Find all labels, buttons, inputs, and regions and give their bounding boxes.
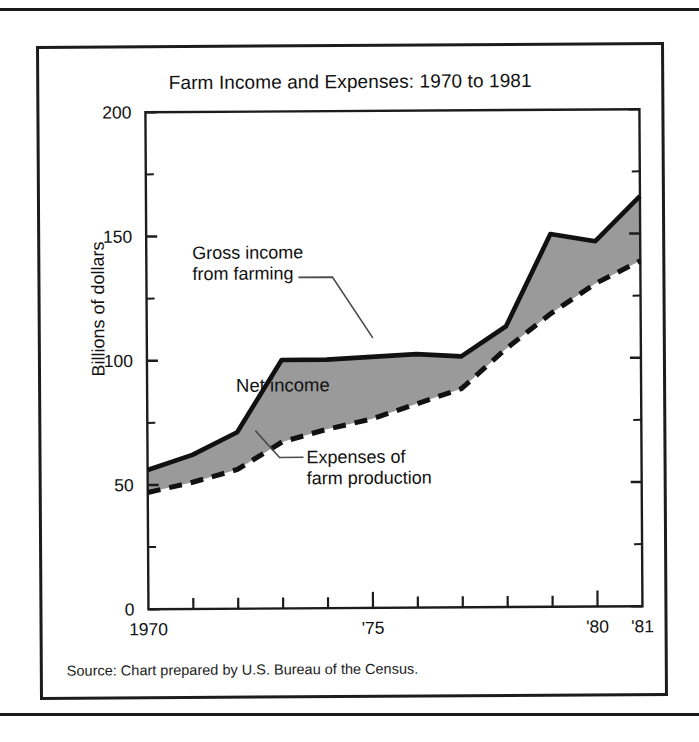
bottom-divider-rule [0, 713, 699, 716]
source-note: Source: Chart prepared by U.S. Bureau of… [67, 661, 419, 679]
x-tick-label: '75 [362, 618, 385, 638]
top-divider-rule [0, 8, 699, 11]
annotation-expenses: Expenses of farm production [306, 447, 431, 490]
x-tick-label: '80 [586, 616, 609, 636]
annotation-net-income: Net income [236, 374, 330, 396]
x-tick-label: '81 [631, 616, 654, 636]
y-axis-label: Billions of dollars [87, 199, 109, 419]
y-tick-label: 50 [114, 475, 134, 495]
gross-income-line [146, 196, 642, 470]
annotation-gross-income: Gross income from farming [192, 242, 303, 285]
leader-line-gross [298, 277, 372, 338]
y-tick-label: 0 [125, 599, 135, 619]
farm-income-area-chart: 0501001502001970'75'80'81 [39, 45, 665, 697]
x-tick-label: 1970 [129, 619, 168, 639]
figure-frame: Farm Income and Expenses: 1970 to 1981 0… [36, 42, 668, 700]
figure-page: Farm Income and Expenses: 1970 to 1981 0… [0, 0, 699, 742]
plot-area: 0501001502001970'75'80'81 [39, 45, 665, 697]
y-tick-label: 200 [102, 102, 132, 122]
